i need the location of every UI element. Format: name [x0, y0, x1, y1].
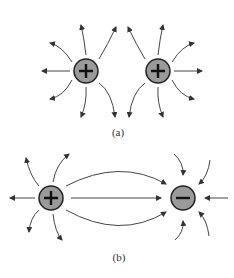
- panel-a-field-lines: [42, 25, 202, 117]
- panel-b-positive-charge: [39, 186, 63, 210]
- panel-a-charge-right: [146, 59, 170, 83]
- panel-a-charge-left: [74, 59, 98, 83]
- panel-a-caption: (a): [98, 126, 138, 138]
- panel-b-negative-charge: [171, 186, 195, 210]
- panel-b-caption: (b): [99, 251, 139, 263]
- electric-field-diagram: [0, 0, 234, 278]
